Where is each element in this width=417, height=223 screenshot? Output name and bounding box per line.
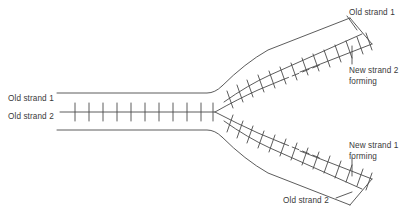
label-old-strand-2-left: Old strand 2 [8, 112, 54, 123]
label-old-strand-1-left: Old strand 1 [8, 94, 54, 105]
fork-drawing [0, 0, 417, 223]
label-old-strand-2-right: Old strand 2 [283, 196, 329, 207]
leader-old-strand-2-right [336, 192, 352, 198]
dna-replication-fork-figure: Old strand 1 Old strand 2 Old strand 1 N… [0, 0, 417, 223]
parent-old-strand-2-backbone [57, 130, 222, 137]
parent-old-strand-1-backbone [57, 86, 222, 93]
lower-branch-old-strand-2 [222, 137, 350, 205]
label-new-strand-1-forming: New strand 1 forming [349, 141, 398, 162]
label-old-strand-1-right: Old strand 1 [349, 8, 395, 19]
label-new-strand-2-forming: New strand 2 forming [349, 66, 398, 87]
upper-branch-old-strand-1 [222, 18, 350, 86]
